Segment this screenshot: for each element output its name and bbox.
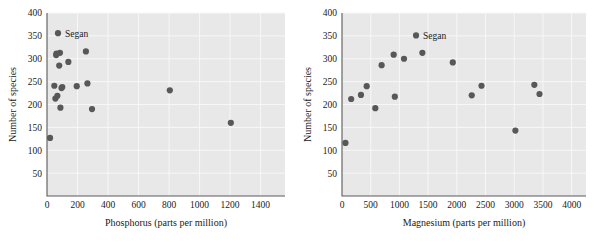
data-point [450, 59, 456, 65]
data-point [55, 30, 61, 36]
annotation-label-segan: Segan [65, 29, 88, 39]
scatter-plot-phosphorus: 5010015020025030035040002004006008001000… [0, 0, 298, 242]
x-tick-label: 0 [340, 200, 345, 210]
data-point [358, 92, 364, 98]
y-tick-label: 350 [323, 31, 338, 41]
y-tick-label: 200 [28, 100, 43, 110]
y-tick-label: 300 [323, 54, 338, 64]
data-point [57, 50, 63, 56]
data-point [167, 87, 173, 93]
x-tick-label: 1200 [221, 200, 240, 210]
x-tick-label: 400 [101, 200, 116, 210]
x-tick-label: 600 [131, 200, 146, 210]
x-tick-label: 0 [45, 200, 50, 210]
data-point [512, 127, 518, 133]
data-point [401, 56, 407, 62]
panel-phosphorus: 5010015020025030035040002004006008001000… [0, 0, 298, 242]
x-tick-label: 2000 [447, 200, 466, 210]
x-axis-title: Phosphorus (parts per million) [105, 217, 227, 229]
y-tick-label: 200 [323, 100, 338, 110]
data-point [342, 140, 348, 146]
x-tick-label: 1000 [190, 200, 209, 210]
y-tick-label: 250 [28, 77, 43, 87]
y-tick-label: 150 [28, 123, 43, 133]
panel-magnesium: 5010015020025030035040005001000150020002… [298, 0, 596, 242]
annotation-label-segan: Segan [423, 31, 446, 41]
data-point [89, 106, 95, 112]
data-point [379, 62, 385, 68]
data-point [478, 83, 484, 89]
data-point [536, 91, 542, 97]
data-point [57, 105, 63, 111]
y-axis-title: Number of species [302, 67, 313, 142]
data-point [228, 120, 234, 126]
y-axis-tick-labels: 50100150200250300350400 [28, 8, 43, 178]
y-tick-label: 100 [28, 146, 43, 156]
data-point [56, 63, 62, 69]
y-tick-label: 400 [323, 8, 338, 18]
x-tick-label: 3000 [505, 200, 524, 210]
x-tick-label: 3500 [533, 200, 552, 210]
x-tick-label: 2500 [476, 200, 495, 210]
data-point [74, 83, 80, 89]
data-point [65, 59, 71, 65]
y-tick-label: 150 [323, 123, 338, 133]
x-tick-label: 800 [162, 200, 177, 210]
data-point [364, 83, 370, 89]
data-point [83, 48, 89, 54]
scatter-plot-magnesium: 5010015020025030035040005001000150020002… [298, 0, 596, 242]
data-point [51, 83, 57, 89]
y-axis-title: Number of species [7, 67, 18, 142]
y-tick-label: 350 [28, 31, 43, 41]
y-tick-label: 50 [328, 169, 338, 179]
data-point [348, 96, 354, 102]
data-point [419, 50, 425, 56]
x-axis-tick-labels: 0200400600800100012001400 [45, 200, 271, 210]
y-tick-label: 100 [323, 146, 338, 156]
data-point [531, 82, 537, 88]
y-tick-label: 400 [28, 8, 43, 18]
data-point [84, 80, 90, 86]
y-tick-label: 250 [323, 77, 338, 87]
figure-two-scatter-panels: 5010015020025030035040002004006008001000… [0, 0, 597, 242]
x-tick-label: 1500 [419, 200, 438, 210]
x-axis-tick-labels: 05001000150020002500300035004000 [340, 200, 582, 210]
y-tick-label: 300 [28, 54, 43, 64]
data-point [391, 52, 397, 58]
data-point [413, 32, 419, 38]
data-point [469, 92, 475, 98]
data-point [59, 84, 65, 90]
y-axis-tick-labels: 50100150200250300350400 [323, 8, 338, 178]
x-axis-title: Magnesium (parts per million) [403, 217, 525, 229]
x-tick-label: 500 [364, 200, 379, 210]
x-tick-label: 1000 [390, 200, 409, 210]
data-point [372, 105, 378, 111]
x-tick-label: 4000 [562, 200, 581, 210]
data-point [54, 93, 60, 99]
x-tick-label: 200 [70, 200, 85, 210]
data-point [392, 94, 398, 100]
data-point [47, 135, 53, 141]
x-tick-label: 1400 [251, 200, 270, 210]
y-tick-label: 50 [33, 169, 43, 179]
